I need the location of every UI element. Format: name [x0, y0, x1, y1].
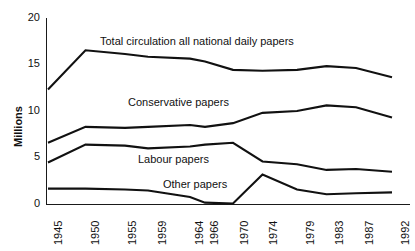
x-tick-1992: 1992	[400, 221, 411, 245]
series-line-conservative	[48, 105, 392, 142]
y-tick-0: 0	[14, 198, 40, 209]
x-tick-1950: 1950	[90, 221, 101, 245]
series-annotation-labour: Labour papers	[138, 153, 209, 165]
x-tick-1970: 1970	[239, 221, 250, 245]
y-tick-5: 5	[14, 151, 40, 162]
y-tick-15: 15	[14, 58, 40, 69]
x-tick-1955: 1955	[127, 221, 138, 245]
x-tick-1987: 1987	[364, 221, 375, 245]
y-tick-10: 10	[14, 105, 40, 116]
x-tick-1964: 1964	[194, 221, 205, 245]
series-annotation-other: Other papers	[163, 178, 227, 190]
series-annotation-conservative: Conservative papers	[128, 96, 229, 108]
y-tick-20: 20	[14, 12, 40, 23]
series-line-total	[48, 50, 392, 89]
series-line-labour	[48, 143, 392, 172]
x-tick-1983: 1983	[334, 221, 345, 245]
x-tick-1979: 1979	[305, 221, 316, 245]
x-tick-1959: 1959	[157, 221, 168, 245]
x-tick-1966: 1966	[209, 221, 220, 245]
x-tick-1974: 1974	[268, 221, 279, 245]
x-tick-1945: 1945	[53, 221, 64, 245]
series-annotation-total: Total circulation all national daily pap…	[100, 35, 294, 47]
chart-container: Millions 20 15 10 5 0 1945 1950 1955 195…	[0, 0, 415, 251]
